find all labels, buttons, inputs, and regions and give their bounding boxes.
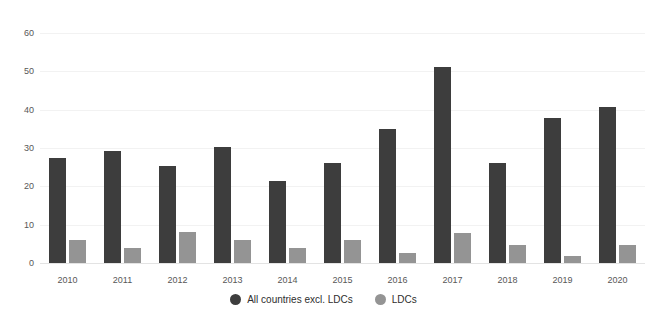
bar — [179, 232, 196, 263]
y-tick-label: 50 — [6, 67, 34, 76]
bar-group — [599, 28, 636, 263]
bar — [289, 248, 306, 263]
bar — [379, 129, 396, 263]
bar — [214, 147, 231, 263]
bar-group — [49, 28, 86, 263]
bar — [544, 118, 561, 263]
legend-item[interactable]: All countries excl. LDCs — [230, 294, 353, 305]
bar — [344, 240, 361, 263]
bar — [269, 181, 286, 263]
x-tick-label: 2018 — [478, 276, 538, 285]
x-tick-label: 2011 — [93, 276, 153, 285]
bar — [619, 245, 636, 263]
bar-group — [379, 28, 416, 263]
bar — [564, 256, 581, 263]
x-tick-label: 2017 — [423, 276, 483, 285]
bar-chart: 0102030405060 20102011201220132014201520… — [0, 0, 647, 320]
bar-group — [324, 28, 361, 263]
legend-label: All countries excl. LDCs — [247, 295, 353, 305]
bar — [49, 158, 66, 263]
legend-circle-icon — [375, 294, 386, 305]
x-tick-label: 2019 — [533, 276, 593, 285]
y-tick-label: 0 — [6, 259, 34, 268]
bar — [489, 163, 506, 263]
bar-group — [269, 28, 306, 263]
bar-group — [434, 28, 471, 263]
x-tick-label: 2016 — [368, 276, 428, 285]
bar-group — [544, 28, 581, 263]
y-tick-label: 20 — [6, 182, 34, 191]
bar — [234, 240, 251, 263]
bar-group — [214, 28, 251, 263]
bar — [159, 166, 176, 263]
bar — [104, 151, 121, 263]
legend-circle-icon — [230, 294, 241, 305]
chart-legend: All countries excl. LDCsLDCs — [0, 294, 647, 305]
bar — [509, 245, 526, 263]
y-tick-label: 30 — [6, 144, 34, 153]
bar — [599, 107, 616, 263]
y-tick-label: 10 — [6, 221, 34, 230]
x-tick-label: 2014 — [258, 276, 318, 285]
plot-area: 0102030405060 20102011201220132014201520… — [40, 28, 645, 268]
bar — [324, 163, 341, 263]
bar — [399, 253, 416, 263]
x-tick-label: 2012 — [148, 276, 208, 285]
bar — [124, 248, 141, 263]
y-tick-label: 40 — [6, 106, 34, 115]
x-tick-label: 2013 — [203, 276, 263, 285]
bar — [69, 240, 86, 263]
y-tick-label: 60 — [6, 29, 34, 38]
bar-group — [159, 28, 196, 263]
bars-layer — [40, 28, 645, 263]
gridline-0 — [40, 263, 645, 264]
legend-item[interactable]: LDCs — [375, 294, 417, 305]
bar-group — [104, 28, 141, 263]
x-tick-label: 2015 — [313, 276, 373, 285]
bar — [434, 67, 451, 263]
legend-label: LDCs — [392, 295, 417, 305]
bar-group — [489, 28, 526, 263]
bar — [454, 233, 471, 263]
x-tick-label: 2010 — [38, 276, 98, 285]
x-tick-label: 2020 — [588, 276, 647, 285]
